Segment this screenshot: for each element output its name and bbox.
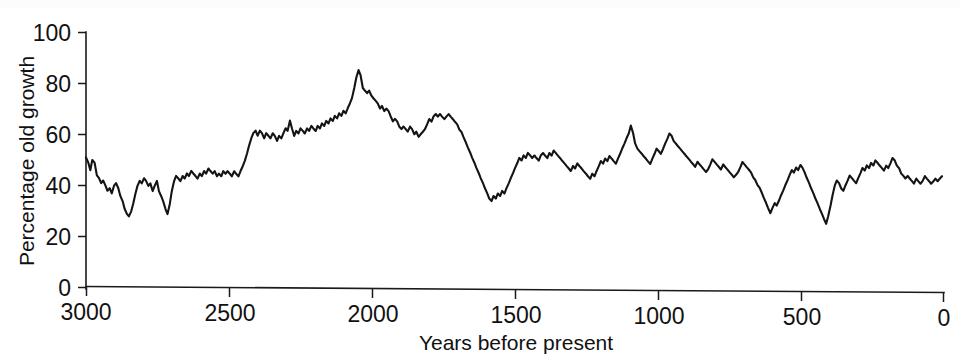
- y-axis-title: Percentage old growth: [15, 56, 38, 266]
- y-tick-label-40: 40: [45, 173, 71, 199]
- y-tick-label-60: 60: [45, 122, 71, 148]
- y-tick-label-80: 80: [45, 71, 71, 97]
- x-tick-label-0: 0: [938, 305, 951, 331]
- old-growth-series-line: [86, 70, 942, 224]
- scan-artifact-top: [0, 0, 960, 8]
- line-chart: 100 80 60 40 20 0 3000 2500 2000 1500 10…: [0, 0, 960, 357]
- x-tick-label-3000: 3000: [60, 299, 111, 325]
- x-axis-title: Years before present: [419, 331, 613, 354]
- x-tick-label-2500: 2500: [204, 300, 255, 326]
- y-tick-marks: [78, 33, 86, 288]
- y-tick-label-20: 20: [45, 224, 71, 250]
- figure-container: 100 80 60 40 20 0 3000 2500 2000 1500 10…: [0, 0, 960, 357]
- y-tick-label-0: 0: [58, 275, 71, 301]
- x-tick-label-1500: 1500: [490, 302, 541, 328]
- y-tick-label-100: 100: [33, 20, 71, 46]
- x-tick-label-500: 500: [783, 304, 821, 330]
- x-tick-label-2000: 2000: [347, 301, 398, 327]
- x-tick-label-1000: 1000: [633, 303, 684, 329]
